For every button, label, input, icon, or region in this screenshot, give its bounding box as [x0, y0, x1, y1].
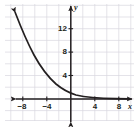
y-axis-label: y	[74, 4, 78, 12]
y-tick-label-4: 4	[63, 72, 67, 80]
x-tick-label-minus-8: −8	[17, 103, 26, 111]
exponential-decay-curve	[15, 13, 129, 99]
x-axis-label: x	[128, 103, 132, 111]
y-tick-label-8: 8	[63, 48, 67, 56]
x-tick-label-minus-4: −4	[42, 103, 51, 111]
x-tick-label-4: 4	[93, 103, 97, 111]
coordinate-graph-figure: −8 −4 4 8 12 8 4 x y	[0, 0, 138, 129]
y-tick-label-12: 12	[58, 25, 67, 33]
x-tick-label-8: 8	[117, 103, 121, 111]
